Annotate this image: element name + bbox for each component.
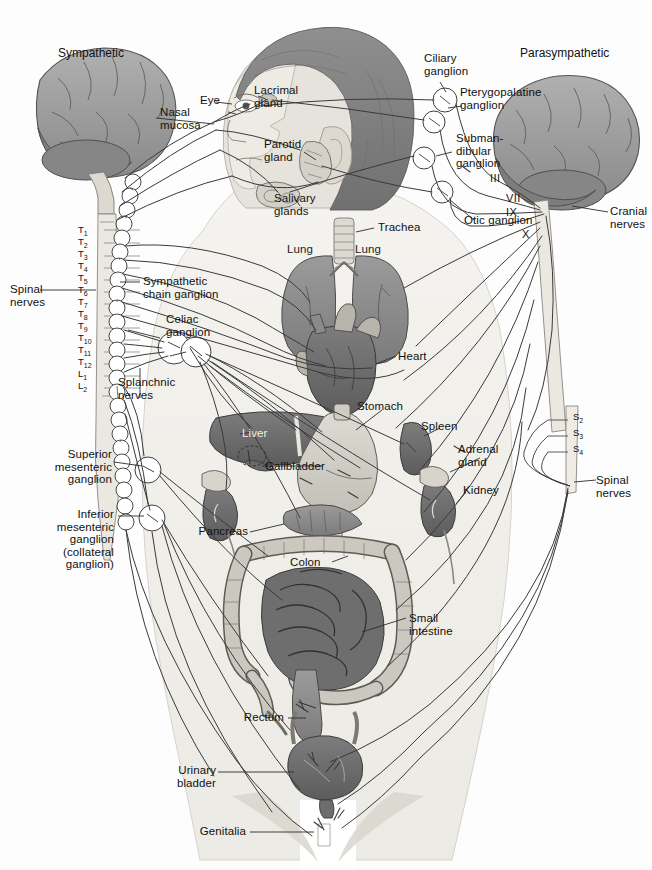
label-colon: Colon [290, 556, 321, 569]
label-cranial-nerves: Cranial nerves [610, 205, 647, 230]
genitalia [318, 824, 330, 846]
label-superior-mesenteric-ganglion: Superior mesenteric ganglion [4, 448, 112, 486]
label-pterygopalatine-ganglion: Pterygopalatine ganglion [460, 86, 541, 111]
label-inferior-mesenteric-ganglion: Inferior mesenteric ganglion (collateral… [4, 508, 114, 571]
label-eye: Eye [200, 94, 220, 107]
label-sympathetic-chain-ganglion: Sympathetic chain ganglion [143, 275, 219, 300]
label-lacrimal-gland: Lacrimal gland [254, 84, 298, 109]
label-parotid-gland: Parotid gland [264, 138, 301, 163]
label-small-intestine: Small intestine [409, 612, 453, 637]
label-otic-ganglion: Otic ganglion [464, 214, 532, 227]
brain-parasympathetic [494, 76, 640, 433]
label-stomach: Stomach [357, 400, 403, 413]
label-genitalia: Genitalia [160, 825, 246, 838]
cranial-nerve-numeral-X: X [522, 228, 530, 241]
cranial-nerve-numeral-IX: IX [506, 206, 517, 219]
label-submandibular-ganglion: Subman- dibular ganglion [456, 132, 503, 170]
label-nasal-mucosa: Nasal mucosa [160, 106, 201, 131]
trachea [334, 218, 354, 264]
label-lung-left: Lung [287, 243, 313, 256]
label-rectum: Rectum [198, 711, 284, 724]
label-salivary-glands: Salivary glands [274, 192, 316, 217]
heading-parasympathetic: Parasympathetic [520, 46, 609, 60]
label-spinal-nerves-right: Spinal nerves [596, 474, 631, 499]
heading-sympathetic: Sympathetic [58, 46, 124, 60]
label-gallbladder: Gallbladder [265, 460, 325, 473]
spinal-segment-S4: S4 [573, 444, 583, 458]
anatomy-illustration [0, 0, 652, 870]
cranial-ganglia [413, 88, 457, 203]
label-spinal-nerves-left: Spinal nerves [10, 283, 45, 308]
label-liver: Liver [242, 427, 267, 440]
spinal-segment-S2: S2 [573, 412, 583, 426]
label-celiac-ganglion: Celiac ganglion [166, 313, 210, 338]
cranial-nerve-numeral-III: III [490, 172, 500, 185]
cranial-nerve-numeral-VII: VII [506, 192, 521, 205]
label-lung-right: Lung [355, 243, 381, 256]
spinal-segment-L2: L2 [78, 381, 87, 395]
label-kidney: Kidney [463, 484, 499, 497]
spinal-segment-S3: S3 [573, 428, 583, 442]
figure-canvas: Sympathetic Parasympathetic Nasal mucosa… [0, 0, 652, 870]
label-trachea: Trachea [378, 221, 420, 234]
label-adrenal-gland: Adrenal gland [458, 443, 498, 468]
label-spleen: Spleen [421, 420, 457, 433]
label-pancreas: Pancreas [160, 525, 248, 538]
label-ciliary-ganglion: Ciliary ganglion [424, 52, 468, 77]
label-heart: Heart [398, 350, 427, 363]
label-splanchnic-nerves: Splanchnic nerves [118, 376, 175, 401]
rectum [292, 670, 322, 744]
brain-sympathetic [36, 48, 175, 214]
label-urinary-bladder: Urinary bladder [130, 764, 216, 789]
